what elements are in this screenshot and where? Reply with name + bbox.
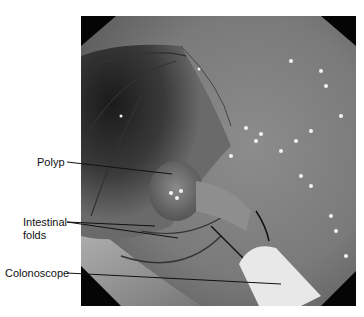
label-colonoscope: Colonoscope [5, 267, 69, 280]
label-polyp: Polyp [37, 156, 65, 169]
colon-lumen-illustration [81, 16, 356, 306]
label-intestinal-folds: Intestinal folds [23, 216, 67, 242]
endoscopic-photo [81, 16, 356, 306]
label-folds-line1: Intestinal [23, 216, 67, 229]
label-folds-line2: folds [23, 229, 67, 242]
